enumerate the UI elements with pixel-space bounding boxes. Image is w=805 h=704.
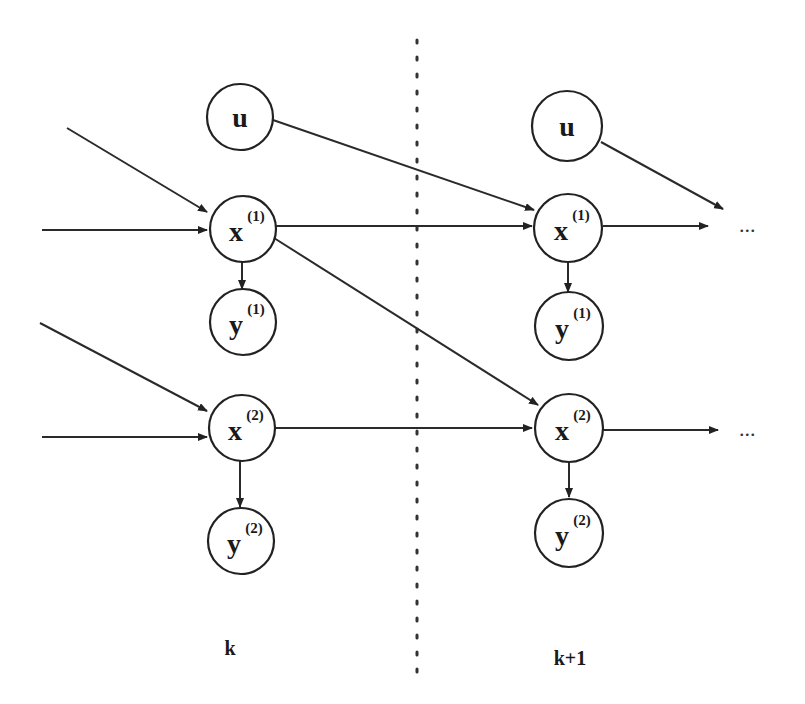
svg-text:y: y bbox=[555, 520, 569, 551]
incoming-edges bbox=[40, 128, 207, 437]
dbn-diagram: ... ... u x (1) y (1) x (2) y (2) u x (1… bbox=[0, 0, 805, 704]
node-y1-k: y (1) bbox=[210, 289, 276, 355]
svg-text:(2): (2) bbox=[573, 407, 591, 424]
continuation-dots-2: ... bbox=[739, 416, 756, 441]
node-x2-k1: x (2) bbox=[535, 394, 603, 462]
svg-text:(2): (2) bbox=[245, 520, 263, 537]
svg-text:(1): (1) bbox=[247, 208, 265, 225]
edges bbox=[240, 120, 723, 507]
time-label-k-plus-1: k+1 bbox=[554, 647, 587, 669]
svg-text:(1): (1) bbox=[247, 301, 265, 318]
svg-text:y: y bbox=[555, 313, 569, 344]
node-y2-k1: y (2) bbox=[535, 499, 603, 567]
svg-text:u: u bbox=[232, 102, 248, 133]
node-x1-k1: x (1) bbox=[534, 194, 602, 262]
svg-text:(1): (1) bbox=[572, 207, 590, 224]
continuation-dots-1: ... bbox=[739, 212, 756, 237]
node-u-k: u bbox=[207, 84, 273, 150]
svg-text:x: x bbox=[228, 415, 242, 446]
time-label-k: k bbox=[224, 637, 236, 659]
node-y1-k1: y (1) bbox=[535, 292, 603, 360]
node-y2-k: y (2) bbox=[208, 508, 274, 574]
node-u-k1: u bbox=[532, 91, 602, 161]
node-x1-k: x (1) bbox=[210, 196, 276, 262]
svg-text:u: u bbox=[559, 111, 575, 142]
svg-text:x: x bbox=[554, 215, 568, 246]
svg-text:y: y bbox=[227, 528, 241, 559]
svg-text:y: y bbox=[229, 309, 243, 340]
svg-text:(2): (2) bbox=[246, 407, 264, 424]
node-x2-k: x (2) bbox=[209, 395, 275, 461]
svg-text:(2): (2) bbox=[573, 512, 591, 529]
svg-text:(1): (1) bbox=[573, 305, 591, 322]
svg-text:x: x bbox=[229, 216, 243, 247]
svg-text:x: x bbox=[555, 415, 569, 446]
